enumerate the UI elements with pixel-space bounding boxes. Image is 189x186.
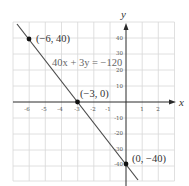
y-tick: 30: [116, 50, 123, 56]
point-label-neg3-0: (−3, 0): [80, 88, 109, 100]
y-tick: 10: [116, 83, 123, 89]
y-tick: 40: [116, 35, 123, 41]
point-0-neg40: [124, 162, 129, 167]
x-tick: -6: [24, 106, 30, 112]
x-axis-label: x: [178, 96, 184, 108]
y-axis-arrow-icon: [124, 23, 129, 30]
y-tick: -40: [114, 161, 123, 167]
x-tick: -3: [74, 106, 80, 112]
x-tick: 1: [140, 106, 144, 112]
x-tick: 2: [156, 106, 160, 112]
y-tick: -20: [114, 130, 123, 136]
y-axis-label: y: [120, 8, 126, 20]
x-axis-arrow-icon: [169, 100, 176, 105]
x-tick: -1: [105, 106, 110, 112]
x-tick: -4: [57, 106, 63, 112]
x-tick: -5: [41, 106, 47, 112]
point-neg3-0: [75, 100, 80, 105]
equation-label: 40x + 3y = −120: [52, 57, 122, 68]
x-tick: -2: [90, 106, 95, 112]
point-label-neg6-40: (−6, 40): [36, 33, 70, 45]
point-neg6-40: [27, 37, 32, 42]
y-tick-labels: 40 30 20 10 -10 -20 -30 -40: [114, 35, 123, 167]
x-tick-labels: -6 -5 -4 -3 -2 -1 1 2: [24, 106, 159, 112]
point-label-0-neg40: (0, −40): [132, 153, 166, 165]
coordinate-plane: x y -6 -5 -4 -3 -2 -1 1 2 40 30 20 10 -1…: [0, 0, 189, 186]
y-tick: -10: [114, 115, 123, 121]
